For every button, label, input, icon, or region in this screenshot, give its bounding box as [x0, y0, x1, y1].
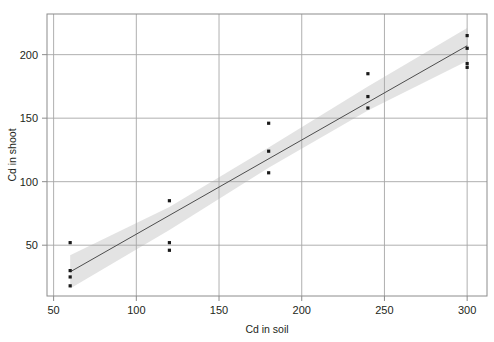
chart-figure: 50100150200250300 50100150200 Cd in soil… — [0, 0, 494, 342]
data-point — [69, 284, 72, 287]
x-tick-label: 50 — [47, 304, 59, 316]
data-point — [69, 241, 72, 244]
fit-line — [70, 46, 467, 272]
data-point — [168, 241, 171, 244]
data-point — [267, 150, 270, 153]
y-axis-tick-labels: 50100150200 — [20, 49, 38, 252]
data-point — [69, 275, 72, 278]
data-point — [267, 122, 270, 125]
y-tick-label: 50 — [26, 239, 38, 251]
data-point — [466, 62, 469, 65]
data-point — [168, 249, 171, 252]
y-tick-label: 100 — [20, 176, 38, 188]
y-tick-label: 150 — [20, 112, 38, 124]
x-tick-label: 250 — [375, 304, 393, 316]
data-point — [466, 66, 469, 69]
data-point — [366, 106, 369, 109]
y-tick-label: 200 — [20, 49, 38, 61]
x-tick-label: 300 — [458, 304, 476, 316]
scatter-plot: 50100150200250300 50100150200 Cd in soil… — [0, 0, 494, 342]
x-tick-label: 100 — [127, 304, 145, 316]
x-tick-label: 150 — [210, 304, 228, 316]
data-point — [168, 199, 171, 202]
data-point — [366, 72, 369, 75]
x-axis-tick-labels: 50100150200250300 — [47, 304, 476, 316]
confidence-band — [70, 28, 467, 288]
y-axis-title: Cd in shoot — [6, 128, 18, 181]
data-point — [366, 95, 369, 98]
data-point — [466, 34, 469, 37]
regression-line — [70, 46, 467, 272]
x-tick-label: 200 — [293, 304, 311, 316]
data-point — [466, 47, 469, 50]
data-point — [267, 171, 270, 174]
confidence-band-area — [70, 28, 467, 288]
x-axis-title: Cd in soil — [245, 323, 288, 335]
data-point — [69, 269, 72, 272]
